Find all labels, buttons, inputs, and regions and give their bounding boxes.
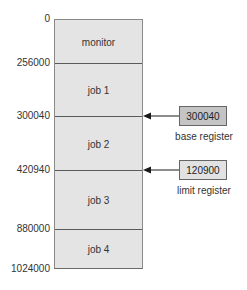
address-label-420940: 420940 (17, 165, 50, 175)
limit-register-value: 120900 (186, 165, 219, 176)
limit-register-arrow-icon (143, 167, 179, 174)
segment-label: job 1 (88, 85, 110, 96)
segment-monitor: monitor (55, 20, 142, 64)
base-register-value: 300040 (186, 111, 219, 122)
address-label-0: 0 (44, 14, 50, 24)
segment-job-2: job 2 (55, 116, 142, 171)
memory-block: monitor job 1 job 2 job 3 job 4 (54, 19, 143, 269)
address-label-880000: 880000 (17, 224, 50, 234)
segment-job-4: job 4 (55, 229, 142, 269)
base-register-box: 300040 (179, 106, 227, 126)
limit-register-box: 120900 (179, 160, 227, 180)
segment-job-1: job 1 (55, 63, 142, 117)
segment-job-3: job 3 (55, 170, 142, 230)
limit-register-label: limit register (168, 185, 240, 196)
address-label-256000: 256000 (17, 58, 50, 68)
address-label-1024000: 1024000 (11, 264, 50, 274)
base-register-label: base register (168, 131, 240, 142)
segment-label: job 4 (88, 244, 110, 255)
segment-label: monitor (82, 37, 115, 48)
base-register-arrow-icon (143, 113, 179, 120)
segment-label: job 2 (88, 139, 110, 150)
address-label-300040: 300040 (17, 111, 50, 121)
segment-label: job 3 (88, 195, 110, 206)
